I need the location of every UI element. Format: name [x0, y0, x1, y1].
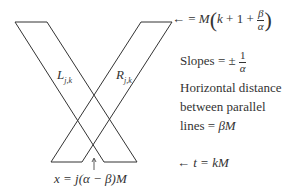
left-band-L	[15, 22, 137, 162]
up-arrow-icon	[92, 158, 96, 170]
x-position-equation: x = j(α − β)M	[54, 172, 127, 185]
top-line-equation: ← = M(k + 1 + βα)	[172, 8, 272, 32]
right-band-R	[51, 22, 172, 162]
left-band-label: Lj,k	[57, 68, 72, 85]
bottom-line-equation: ← t = kM	[177, 156, 229, 169]
horizontal-distance-line3: lines = βM	[180, 119, 236, 132]
slopes-label: Slopes = ± 1α	[180, 50, 246, 74]
horizontal-distance-line1: Horizontal distance	[180, 81, 281, 94]
right-band-label: Rj,k	[116, 68, 132, 85]
horizontal-distance-line2: between parallel	[180, 100, 266, 113]
